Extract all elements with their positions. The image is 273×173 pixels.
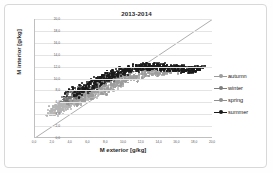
gridline: [35, 102, 212, 103]
legend-marker-icon: [214, 97, 227, 103]
scatter-point: [127, 82, 129, 84]
legend-item-spring[interactable]: spring: [214, 94, 270, 106]
scatter-point: [96, 97, 98, 99]
scatter-point: [110, 71, 112, 73]
scatter-point: [156, 75, 158, 77]
scatter-point: [135, 75, 137, 77]
scatter-point: [194, 70, 196, 72]
y-axis-tick-label: 8,0: [30, 89, 60, 93]
gridline: [35, 19, 212, 20]
scatter-point: [152, 74, 154, 76]
gridline: [35, 114, 212, 115]
scatter-point: [128, 68, 130, 70]
scatter-point: [56, 106, 58, 108]
scatter-point: [196, 68, 198, 70]
gridline: [35, 90, 212, 91]
gridline: [35, 31, 212, 32]
scatter-point: [47, 109, 49, 111]
scatter-point: [100, 92, 102, 94]
scatter-point: [180, 72, 182, 74]
scatter-point: [124, 80, 126, 82]
scatter-point: [117, 88, 119, 90]
scatter-point: [138, 68, 140, 70]
scatter-point: [133, 71, 135, 73]
scatter-point: [92, 85, 94, 87]
legend-label: spring: [228, 97, 243, 103]
scatter-point: [177, 72, 179, 74]
legend-marker-icon: [214, 85, 227, 91]
scatter-point: [90, 97, 92, 99]
x-axis-tick-label: 20,0: [201, 140, 223, 144]
scatter-point: [112, 74, 114, 76]
scatter-point: [108, 91, 110, 93]
legend-marker-icon: [214, 109, 227, 115]
scatter-point: [52, 105, 54, 107]
scatter-point: [104, 81, 106, 83]
scatter-point: [59, 107, 61, 109]
gridline: [35, 43, 212, 44]
scatter-point: [119, 68, 121, 70]
scatter-point: [111, 69, 113, 71]
y-axis-tick-label: 4,0: [30, 113, 60, 117]
scatter-point: [147, 63, 149, 65]
scatter-point: [168, 70, 170, 72]
scatter-point: [66, 108, 68, 110]
y-axis-tick-label: 2,0: [30, 124, 60, 128]
scatter-point: [68, 96, 70, 98]
scatter-point: [88, 84, 90, 86]
scatter-point: [122, 85, 124, 87]
scatter-point: [81, 94, 83, 96]
chart-figure: 2013-2014 M interior [g/kg] M exterior […: [0, 0, 273, 173]
legend-item-winter[interactable]: winter: [214, 82, 270, 94]
scatter-point: [127, 74, 129, 76]
x-axis-title: M exterior [g/kg]: [34, 147, 212, 153]
scatter-point: [68, 104, 70, 106]
legend-marker-icon: [214, 73, 227, 79]
chart-title: 2013-2014: [0, 10, 273, 17]
gridline: [35, 67, 212, 68]
y-axis-tick-label: 20,0: [30, 17, 60, 21]
scatter-point: [112, 85, 114, 87]
legend-item-autumn[interactable]: autumn: [214, 70, 270, 82]
gridline: [35, 55, 212, 56]
scatter-point: [105, 93, 107, 95]
scatter-point: [107, 85, 109, 87]
y-axis-tick-label: 18,0: [30, 29, 60, 33]
y-axis-tick-label: 16,0: [30, 41, 60, 45]
y-axis-tick-label: 12,0: [30, 65, 60, 69]
scatter-point: [64, 108, 66, 110]
scatter-point: [135, 73, 137, 75]
scatter-point: [94, 82, 96, 84]
y-axis-tick-label: 14,0: [30, 53, 60, 57]
legend-label: autumn: [228, 73, 247, 79]
gridline: [35, 126, 212, 127]
y-axis-tick-label: 10,0: [30, 77, 60, 81]
gridline: [35, 79, 212, 80]
scatter-point: [103, 93, 105, 95]
y-axis-tick-label: 6,0: [30, 101, 60, 105]
scatter-point: [156, 72, 158, 74]
scatter-point: [96, 86, 98, 88]
legend-item-summer[interactable]: summer: [214, 106, 270, 118]
y-axis-title: M interior [g/kg]: [16, 0, 22, 107]
scatter-point: [78, 96, 80, 98]
legend-label: summer: [228, 109, 248, 115]
scatter-point: [147, 75, 149, 77]
scatter-point: [48, 105, 50, 107]
chart-legend: autumnwinterspringsummer: [214, 70, 270, 118]
scatter-point: [102, 85, 104, 87]
scatter-point: [80, 104, 82, 106]
plot-area: [34, 19, 212, 138]
scatter-point: [202, 68, 204, 70]
scatter-point: [84, 96, 86, 98]
legend-label: winter: [228, 85, 243, 91]
scatter-point: [131, 75, 133, 77]
